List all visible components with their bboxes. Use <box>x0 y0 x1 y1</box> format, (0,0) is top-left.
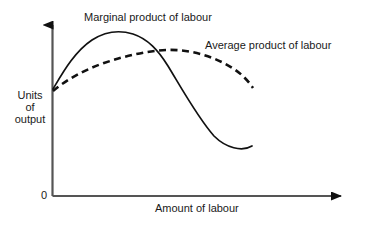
x-axis-label: Amount of labour <box>155 203 239 214</box>
average-product-curve <box>53 50 253 91</box>
y-axis-label-line-2: of <box>10 101 50 113</box>
y-axis-label-line-1: Units <box>10 89 50 101</box>
marginal-product-annotation: Marginal product of labour <box>84 12 212 23</box>
origin-label: 0 <box>41 190 47 201</box>
average-product-annotation: Average product of labour <box>205 40 331 51</box>
y-axis-label-line-3: output <box>10 113 50 125</box>
y-axis-label: Units of output <box>10 89 50 125</box>
chart-plot-area <box>0 0 374 226</box>
chart-figure: Marginal product of labour Average produ… <box>0 0 374 226</box>
